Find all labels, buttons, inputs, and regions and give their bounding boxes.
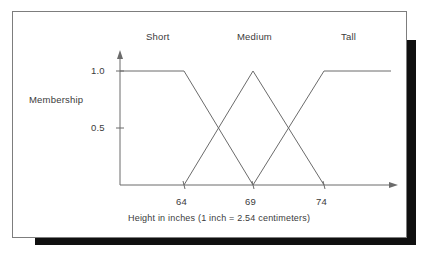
series-label-tall: Tall xyxy=(341,32,356,42)
chart-svg xyxy=(13,12,408,239)
series-label-short: Short xyxy=(146,32,170,42)
y-axis-title: Membership xyxy=(29,95,83,105)
series-line-medium xyxy=(184,71,324,185)
x-tick-label-69: 69 xyxy=(245,197,256,207)
x-tick-label-74: 74 xyxy=(316,197,327,207)
x-tick-label-64: 64 xyxy=(176,197,187,207)
figure-shadow-right xyxy=(407,40,416,245)
series-line-tall xyxy=(253,71,391,185)
screenshot-root: Short Medium Tall Membership 1.0 0.5 64 … xyxy=(0,0,424,254)
membership-chart xyxy=(13,12,406,237)
x-axis-caption: Height in inches (1 inch = 2.54 centimet… xyxy=(128,214,310,223)
y-tick-label-1.0: 1.0 xyxy=(91,66,105,76)
series-line-short xyxy=(120,71,253,185)
x-axis-arrow-icon xyxy=(389,182,398,188)
figure-frame: Short Medium Tall Membership 1.0 0.5 64 … xyxy=(12,11,407,238)
y-tick-label-0.5: 0.5 xyxy=(91,123,105,133)
series-label-medium: Medium xyxy=(237,32,272,42)
y-axis-arrow-icon xyxy=(117,50,123,59)
